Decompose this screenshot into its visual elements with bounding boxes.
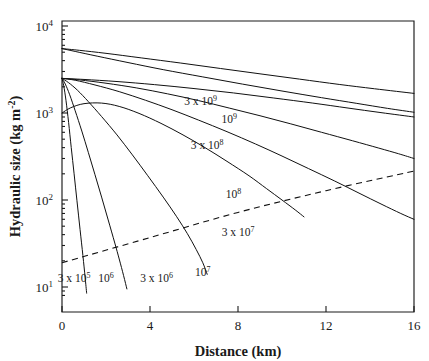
y-tick-label-1: 101 xyxy=(36,279,54,295)
x-tick-label-12: 12 xyxy=(320,318,333,333)
y-axis-tick-labels: 104103102101 xyxy=(36,18,54,295)
curve-10-6 xyxy=(62,78,127,289)
data-curves xyxy=(62,49,414,294)
svg-text:102: 102 xyxy=(36,192,54,208)
y-tick-label-3: 103 xyxy=(36,105,54,121)
curve-label-10-9: 109 xyxy=(221,112,237,125)
y-tick-label-2: 102 xyxy=(36,192,54,208)
x-tick-label-0: 0 xyxy=(59,318,66,333)
curve-label-3-x-10-5: 3 x 105 xyxy=(58,271,91,284)
x-tick-label-16: 16 xyxy=(408,318,422,333)
curve-3-x-10-9 xyxy=(62,49,414,94)
curve-label-3-x-10-8: 3 x 108 xyxy=(191,138,224,151)
plot-box-border xyxy=(62,21,414,312)
curve-3-x-10-7 xyxy=(62,78,414,219)
figure-container: 104103102101 0481216 3 x 1051063 x 10610… xyxy=(0,0,429,361)
dashed-reference-line xyxy=(62,171,414,263)
x-axis-title: Distance (km) xyxy=(195,343,282,360)
svg-text:104: 104 xyxy=(36,18,54,34)
curve-10-9 xyxy=(62,49,414,113)
x-tick-label-8: 8 xyxy=(235,318,242,333)
curve-label-3-x-10-6: 3 x 106 xyxy=(140,271,173,284)
x-axis-tick-labels: 0481216 xyxy=(59,318,421,333)
curve-label-10-6: 106 xyxy=(98,271,114,284)
x-tick-label-4: 4 xyxy=(147,318,154,333)
curve-3-x-10-6 xyxy=(62,78,207,274)
curve-label-10-8: 108 xyxy=(226,187,242,200)
plot-frame xyxy=(62,21,414,312)
dashed-reference-line xyxy=(62,171,414,263)
curve-label-3-x-10-7: 3 x 107 xyxy=(222,225,255,238)
curve-label-10-7: 107 xyxy=(195,265,211,278)
svg-text:101: 101 xyxy=(36,279,54,295)
y-tick-label-4: 104 xyxy=(36,18,54,34)
svg-text:103: 103 xyxy=(36,105,54,121)
curve-label-3-x-10-9: 3 x 109 xyxy=(184,94,217,107)
curve-10-7 xyxy=(62,103,304,217)
y-axis-title: Hydraulic size (kg m-2) xyxy=(6,96,24,238)
hydraulic-size-vs-distance-chart: 104103102101 0481216 3 x 1051063 x 10610… xyxy=(0,0,429,361)
